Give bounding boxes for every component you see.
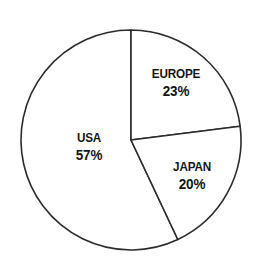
slice-label-usa-category: USA bbox=[76, 131, 102, 146]
slice-label-europe: EUROPE 23% bbox=[149, 67, 203, 99]
pie-chart: USA 57% EUROPE 23% JAPAN 20% bbox=[0, 0, 263, 272]
slice-label-usa: USA 57% bbox=[74, 131, 103, 163]
slice-label-japan: JAPAN 20% bbox=[171, 160, 213, 192]
slice-label-usa-value: 57% bbox=[76, 146, 102, 163]
slice-label-japan-category: JAPAN bbox=[173, 160, 211, 175]
pie-chart-canvas bbox=[0, 0, 263, 272]
slice-label-japan-value: 20% bbox=[173, 175, 211, 192]
slice-label-europe-category: EUROPE bbox=[152, 67, 200, 82]
slice-label-europe-value: 23% bbox=[152, 82, 200, 99]
pie-slice-group bbox=[21, 30, 241, 250]
